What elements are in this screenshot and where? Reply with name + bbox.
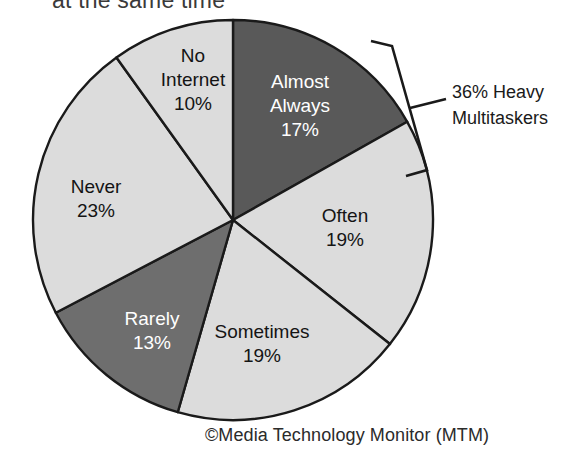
pie-chart: AlmostAlways17%Often19%Sometimes19%Rarel… — [0, 0, 587, 455]
slice-value-label: 17% — [281, 119, 319, 140]
annotation-line-1: 36% Heavy — [452, 82, 544, 102]
slice-name-label: Never — [71, 176, 122, 197]
slice-value-label: 19% — [243, 345, 281, 366]
slice-value-label: 10% — [174, 93, 212, 114]
slice-name-label: Always — [270, 95, 330, 116]
slice-value-label: 13% — [133, 332, 171, 353]
chart-credit: ©Media Technology Monitor (MTM) — [205, 425, 489, 446]
slice-name-label: Almost — [271, 71, 330, 92]
bracket-leader-line — [410, 99, 446, 108]
chart-figure: at the same time AlmostAlways17%Often19%… — [0, 0, 587, 455]
annotation-line-2: Multitaskers — [452, 108, 548, 128]
slice-name-label: No — [181, 45, 205, 66]
slice-name-label: Often — [322, 205, 368, 226]
slice-name-label: Rarely — [125, 308, 180, 329]
slice-value-label: 23% — [77, 200, 115, 221]
slice-value-label: 19% — [326, 229, 364, 250]
slice-name-label: Sometimes — [214, 321, 309, 342]
slice-name-label: Internet — [161, 69, 226, 90]
